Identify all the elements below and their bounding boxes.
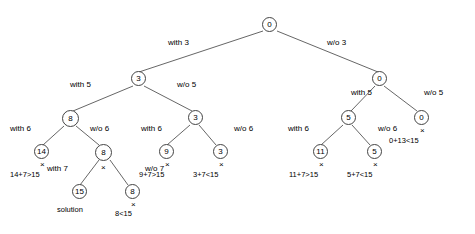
tree-node-14: 14 [34,144,49,159]
prune-x-icon: × [101,163,106,172]
prune-x-icon: × [40,160,45,169]
edge-label-without-3: w/o 3 [327,38,346,47]
tree-node-5-b: 5 [367,144,382,159]
node-label: 15 [75,188,84,196]
edge-label-without-6-b: w/o 6 [234,124,253,133]
edge-label-with-7: with 7 [47,164,68,173]
node-label: 11 [316,148,324,156]
edge-label-without-6-a: w/o 6 [90,124,109,133]
node-label: 8 [68,115,72,123]
edge-label-with-6-a: with 6 [10,124,31,133]
tree-node-11: 11 [313,144,328,159]
node-label: 5 [346,114,350,122]
annotation-11: 11+7>15 [289,170,318,179]
node-label: 3 [193,114,197,122]
node-label: 9 [164,148,168,156]
node-label: 0 [377,75,381,83]
prune-x-icon: × [219,160,224,169]
tree-node-3-b: 3 [188,110,203,125]
decision-tree-diagram: 0 3 0 8 3 5 0 14 8 9 3 11 5 15 8 with 3 … [0,0,475,234]
annotation-5: 5+7<15 [347,170,372,179]
tree-node-8: 8 [62,110,79,127]
edge-label-with-5-left: with 5 [70,80,91,89]
annotation-9: 9+7>15 [139,170,164,179]
node-label: 0 [419,114,423,122]
annotation-0: 0+13<15 [389,136,419,145]
tree-node-0-right: 0 [372,71,387,86]
edge-label-with-6-b: with 6 [141,124,162,133]
edge-label-with-3: with 3 [168,38,189,47]
annotation-14: 14+7>15 [10,170,40,179]
edge-label-with-5-right: with 5 [351,88,372,97]
annotation-3: 3+7<15 [193,170,218,179]
edge-label-with-6-c: with 6 [288,124,309,133]
node-label: 8 [130,188,134,196]
tree-node-8-c: 8 [125,184,140,199]
node-label: 0 [267,21,271,29]
edge-label-without-5-right: w/o 5 [424,88,443,97]
tree-node-5: 5 [341,110,356,125]
prune-x-icon: × [131,200,136,209]
edge-label-without-5-left: w/o 5 [177,80,196,89]
node-label: 14 [37,148,46,156]
tree-node-15: 15 [72,184,87,199]
tree-node-9: 9 [159,144,174,159]
tree-node-0-rightmost: 0 [414,110,429,125]
edge-label-without-6-c: w/o 6 [378,124,397,133]
prune-x-icon: × [165,160,170,169]
node-label: 5 [372,148,376,156]
node-label: 3 [136,75,140,83]
node-label: 3 [218,148,222,156]
tree-node-root: 0 [262,17,277,32]
node-label: 8 [101,149,105,157]
annotation-8: 8<15 [115,209,132,218]
prune-x-icon: × [373,160,378,169]
tree-node-3: 3 [131,71,146,86]
prune-x-icon: × [420,126,425,135]
tree-node-8-b: 8 [95,144,112,161]
annotation-solution: solution [57,205,83,214]
tree-node-3-c: 3 [213,144,228,159]
prune-x-icon: × [319,160,324,169]
